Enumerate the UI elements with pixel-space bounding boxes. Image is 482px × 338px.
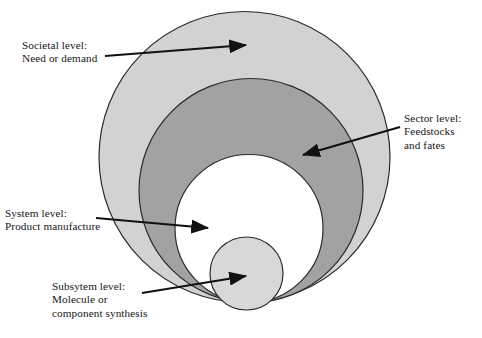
sector-label-line3: and fates bbox=[404, 139, 462, 152]
system-label-line2: Product manufacture bbox=[5, 220, 100, 233]
subsystem-label-line3: component synthesis bbox=[52, 307, 147, 320]
sector-label-line2: Feedstocks bbox=[404, 125, 462, 138]
subsystem-level-label: Subsytem level: Molecule or component sy… bbox=[52, 280, 147, 320]
societal-label-line1: Societal level: bbox=[22, 39, 97, 52]
circle-group bbox=[99, 12, 390, 311]
subsystem-circle bbox=[210, 237, 283, 310]
system-label-line1: System level: bbox=[5, 207, 100, 220]
diagram-canvas: Societal level: Need or demand Sector le… bbox=[0, 0, 482, 338]
subsystem-label-line2: Molecule or bbox=[52, 293, 147, 306]
system-level-label: System level: Product manufacture bbox=[5, 207, 100, 234]
societal-label-line2: Need or demand bbox=[22, 52, 97, 65]
subsystem-label-line1: Subsytem level: bbox=[52, 280, 147, 293]
sector-level-label: Sector level: Feedstocks and fates bbox=[404, 112, 462, 152]
societal-level-label: Societal level: Need or demand bbox=[22, 39, 97, 66]
sector-label-line1: Sector level: bbox=[404, 112, 462, 125]
